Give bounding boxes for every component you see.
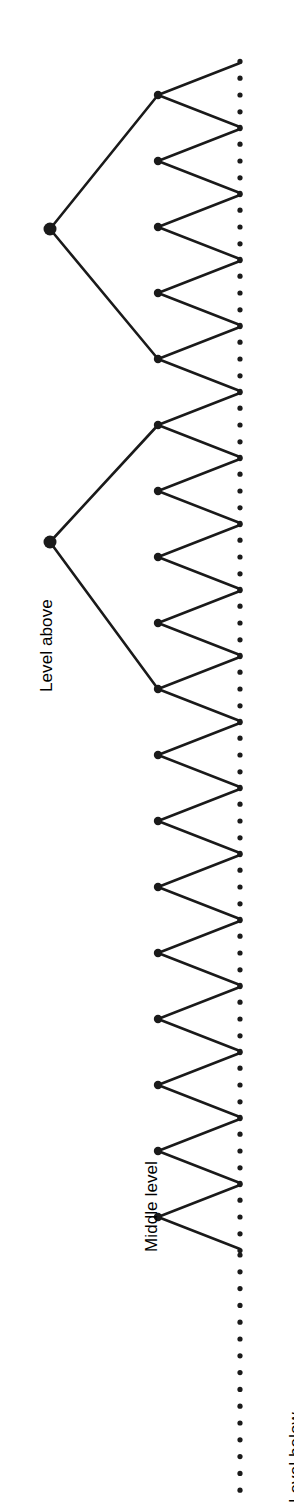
- leaf-dot: [237, 752, 242, 757]
- branch-lower: [158, 887, 240, 919]
- leaf-dot: [237, 719, 242, 724]
- leaf-dot: [237, 637, 242, 642]
- leaf-dot: [237, 703, 242, 708]
- label-middle-level: Middle level: [143, 1161, 160, 1252]
- leaf-dot: [237, 1082, 242, 1087]
- leaf-dot: [237, 851, 242, 856]
- leaf-dot: [237, 802, 242, 807]
- branch-upper: [158, 723, 240, 755]
- branch-lower: [158, 1217, 240, 1249]
- leaf-dot: [237, 59, 242, 64]
- branch-upper: [158, 195, 240, 227]
- branch-lower: [158, 755, 240, 787]
- middle-node: [154, 487, 162, 495]
- middle-node: [154, 157, 162, 165]
- leaf-dot: [237, 983, 242, 988]
- leaf-dot: [237, 1115, 242, 1120]
- leaf-dot: [237, 1165, 242, 1170]
- middle-node: [154, 223, 162, 231]
- branch-lower: [158, 491, 240, 523]
- leaf-dot: [237, 257, 242, 262]
- middle-node: [154, 619, 162, 627]
- leaf-dot: [237, 1099, 242, 1104]
- leaf-dot: [237, 373, 242, 378]
- leaf-dot: [237, 1198, 242, 1203]
- leaf-dot: [237, 554, 242, 559]
- leaf-dot: [237, 1033, 242, 1038]
- parent-node-1: [44, 223, 57, 236]
- branch-lower: [158, 689, 240, 721]
- branch-lower: [158, 1151, 240, 1183]
- leaf-dot: [237, 472, 242, 477]
- leaf-dot: [237, 1066, 242, 1071]
- branch-lower: [158, 1019, 240, 1051]
- branch-lower: [158, 1085, 240, 1117]
- leaf-dot: [237, 818, 242, 823]
- trailing-dot: [237, 1252, 242, 1257]
- middle-node: [154, 751, 162, 759]
- branch-upper: [158, 855, 240, 887]
- trailing-dot: [237, 1269, 242, 1274]
- trailing-dot: [237, 1454, 242, 1459]
- leaf-dot: [237, 1049, 242, 1054]
- branch-upper: [158, 129, 240, 161]
- leaf-dot: [237, 356, 242, 361]
- leaf-dot: [237, 340, 242, 345]
- middle-node: [154, 355, 162, 363]
- leaf-dot: [237, 587, 242, 592]
- leaf-dot: [237, 736, 242, 741]
- trailing-dot: [237, 1488, 242, 1493]
- leaf-dot: [237, 175, 242, 180]
- trailing-dot: [237, 1437, 242, 1442]
- leaf-dot: [237, 769, 242, 774]
- branch-upper: [158, 789, 240, 821]
- leaf-dot: [237, 1181, 242, 1186]
- branch-lower: [158, 161, 240, 193]
- trailing-dot: [237, 1420, 242, 1425]
- branch-lower: [158, 425, 240, 457]
- leaf-dot: [237, 934, 242, 939]
- branch-upper: [158, 1053, 240, 1085]
- leaf-dot: [237, 290, 242, 295]
- branch-upper: [158, 591, 240, 623]
- trailing-dots-layer: [237, 1252, 242, 1492]
- leaf-dot: [237, 439, 242, 444]
- leaf-dot: [237, 488, 242, 493]
- branch-lower: [158, 227, 240, 259]
- trailing-dot: [237, 1370, 242, 1375]
- leaf-dot: [237, 571, 242, 576]
- parent-edge: [50, 95, 158, 229]
- leaf-dot: [237, 406, 242, 411]
- leaf-dot: [237, 92, 242, 97]
- leaf-dot: [237, 1231, 242, 1236]
- leaf-dot: [237, 950, 242, 955]
- branch-lower: [158, 95, 240, 127]
- branch-upper: [158, 63, 240, 95]
- branch-lower: [158, 293, 240, 325]
- trailing-dot: [237, 1303, 242, 1308]
- branch-upper: [158, 459, 240, 491]
- leaf-dot: [237, 109, 242, 114]
- branch-upper: [158, 1185, 240, 1217]
- parent-edge: [50, 425, 158, 542]
- trailing-dot: [237, 1286, 242, 1291]
- tree-diagram-canvas: [0, 0, 294, 1506]
- branch-upper: [158, 1119, 240, 1151]
- trailing-dot: [237, 1320, 242, 1325]
- middle-node: [154, 553, 162, 561]
- leaf-dot: [237, 521, 242, 526]
- leaf-dot: [237, 868, 242, 873]
- middle-node: [154, 685, 162, 693]
- middle-node: [154, 421, 162, 429]
- leaf-dot: [237, 158, 242, 163]
- leaf-dot: [237, 835, 242, 840]
- leaf-dot: [237, 274, 242, 279]
- branch-upper: [158, 327, 240, 359]
- branch-upper: [158, 393, 240, 425]
- leaf-dots-layer: [237, 59, 242, 1253]
- leaf-dot: [237, 142, 242, 147]
- parent-edge: [50, 229, 158, 359]
- leaf-dot: [237, 1000, 242, 1005]
- leaf-dot: [237, 76, 242, 81]
- leaf-dot: [237, 389, 242, 394]
